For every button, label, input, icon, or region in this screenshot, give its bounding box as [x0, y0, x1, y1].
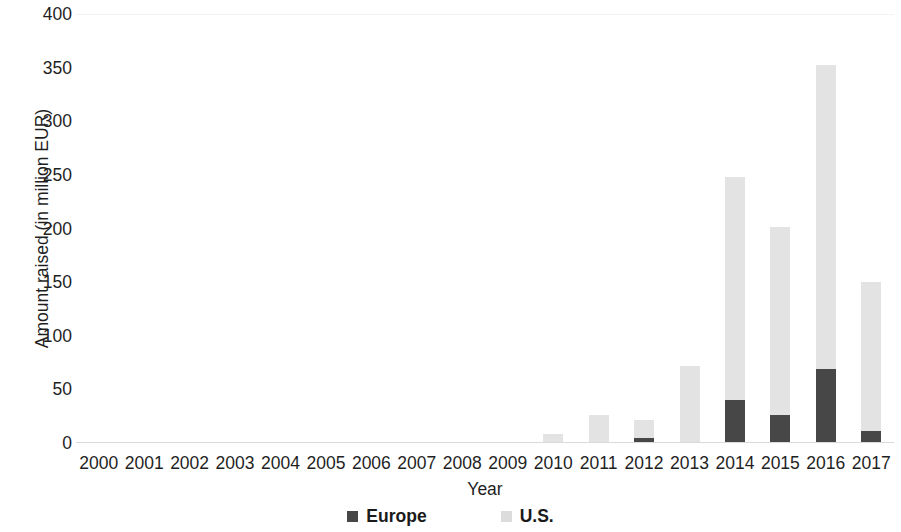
x-tick-label: 2001	[121, 452, 166, 474]
x-tick-label: 2000	[76, 452, 121, 474]
x-tick-label: 2017	[849, 452, 894, 474]
bar-chart: Amount raised (in million EUR) 050100150…	[0, 0, 901, 532]
legend-swatch-us-icon	[501, 511, 512, 522]
bar-segment-us[interactable]	[680, 366, 700, 443]
y-tick-label: 0	[0, 434, 72, 452]
y-tick-label: 250	[0, 166, 72, 184]
x-axis-tick-labels: 2000200120022003200420052006200720082009…	[76, 452, 894, 476]
x-tick-label: 2009	[485, 452, 530, 474]
bar-segment-us[interactable]	[725, 177, 745, 400]
x-tick-label: 2003	[212, 452, 257, 474]
bar-group[interactable]	[770, 227, 790, 443]
x-tick-label: 2010	[530, 452, 575, 474]
bar-segment-europe[interactable]	[725, 400, 745, 443]
bar-segment-us[interactable]	[861, 282, 881, 431]
bar-segment-us[interactable]	[770, 227, 790, 415]
bar-group[interactable]	[589, 415, 609, 443]
bar-segment-us[interactable]	[634, 420, 654, 437]
bar-segment-europe[interactable]	[770, 415, 790, 443]
x-tick-label: 2005	[303, 452, 348, 474]
x-tick-label: 2004	[258, 452, 303, 474]
x-axis-line	[76, 442, 894, 443]
plot-area	[76, 14, 894, 443]
x-tick-label: 2011	[576, 452, 621, 474]
y-tick-label: 400	[0, 5, 72, 23]
legend-label-europe: Europe	[366, 506, 426, 527]
bars-layer	[76, 14, 894, 443]
x-tick-label: 2014	[712, 452, 757, 474]
y-tick-label: 350	[0, 59, 72, 77]
y-tick-label: 100	[0, 327, 72, 345]
legend: Europe U.S.	[0, 506, 901, 527]
x-tick-label: 2002	[167, 452, 212, 474]
bar-group[interactable]	[725, 177, 745, 443]
bar-group[interactable]	[634, 420, 654, 443]
bar-segment-us[interactable]	[589, 415, 609, 443]
legend-item-us[interactable]: U.S.	[501, 506, 554, 527]
bar-segment-us[interactable]	[816, 65, 836, 369]
y-tick-label: 300	[0, 112, 72, 130]
x-tick-label: 2007	[394, 452, 439, 474]
x-tick-label: 2012	[621, 452, 666, 474]
y-tick-label: 200	[0, 220, 72, 238]
x-tick-label: 2013	[667, 452, 712, 474]
bar-group[interactable]	[816, 65, 836, 443]
y-axis-tick-labels: 050100150200250300350400	[0, 0, 72, 460]
bar-segment-europe[interactable]	[816, 369, 836, 443]
x-tick-label: 2015	[758, 452, 803, 474]
x-tick-label: 2008	[440, 452, 485, 474]
x-tick-label: 2016	[803, 452, 848, 474]
y-tick-label: 50	[0, 380, 72, 398]
legend-item-europe[interactable]: Europe	[347, 506, 426, 527]
x-axis-title: Year	[76, 479, 894, 500]
x-tick-label: 2006	[349, 452, 394, 474]
legend-swatch-europe-icon	[347, 511, 358, 522]
y-tick-label: 150	[0, 273, 72, 291]
bar-group[interactable]	[680, 366, 700, 443]
bar-group[interactable]	[861, 282, 881, 443]
legend-label-us: U.S.	[520, 506, 554, 527]
